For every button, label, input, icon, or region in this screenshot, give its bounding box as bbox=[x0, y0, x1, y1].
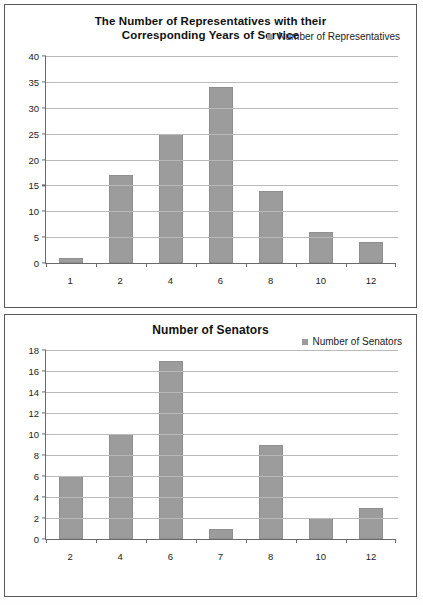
y-axis-tick-mark bbox=[42, 454, 46, 455]
y-axis-tick-mark bbox=[42, 496, 46, 497]
bar-slot bbox=[146, 350, 196, 539]
x-axis-tick-mark bbox=[46, 539, 47, 543]
x-axis-tick-mark bbox=[96, 539, 97, 543]
y-axis-tick-mark bbox=[42, 55, 46, 56]
y-axis-tick-mark bbox=[42, 262, 46, 263]
y-axis-tick-label: 0 bbox=[34, 534, 39, 545]
y-axis-tick-mark bbox=[42, 475, 46, 476]
y-axis-tick-label: 10 bbox=[28, 206, 39, 217]
y-axis-tick-mark bbox=[42, 159, 46, 160]
y-axis-tick-label: 2 bbox=[34, 513, 39, 524]
bar-senators-6 bbox=[159, 361, 183, 540]
x-axis-tick-label: 12 bbox=[346, 275, 396, 286]
bar-slot bbox=[346, 350, 396, 539]
chart-title-senators: Number of Senators bbox=[5, 315, 416, 337]
bar-senators-4 bbox=[109, 434, 133, 539]
plot-canvas-senators: 024681012141618 bbox=[45, 350, 396, 540]
y-axis-tick-mark bbox=[42, 237, 46, 238]
y-axis-tick-mark bbox=[42, 517, 46, 518]
y-axis-tick-label: 25 bbox=[28, 128, 39, 139]
y-axis-tick-label: 12 bbox=[28, 408, 39, 419]
x-axis-tick-mark bbox=[395, 263, 396, 267]
x-axis-tick-mark bbox=[395, 539, 396, 543]
bar-slot bbox=[296, 350, 346, 539]
x-axis-tick-mark bbox=[346, 539, 347, 543]
x-axis-tick-label: 6 bbox=[195, 275, 245, 286]
y-axis-tick-label: 35 bbox=[28, 76, 39, 87]
legend-swatch-icon bbox=[267, 34, 273, 40]
y-axis-tick-mark bbox=[42, 107, 46, 108]
x-axis-tick-mark bbox=[146, 263, 147, 267]
y-axis-tick-mark bbox=[42, 81, 46, 82]
y-axis-tick-mark bbox=[42, 412, 46, 413]
x-axis-tick-label: 7 bbox=[195, 551, 245, 562]
x-axis-tick-mark bbox=[246, 263, 247, 267]
gridline bbox=[46, 82, 398, 83]
y-axis-tick-label: 4 bbox=[34, 492, 39, 503]
bar-senators-12 bbox=[359, 508, 383, 540]
bar-representatives-1 bbox=[59, 258, 83, 263]
y-axis-tick-label: 14 bbox=[28, 387, 39, 398]
y-axis-tick-mark bbox=[42, 391, 46, 392]
x-axis-tick-mark bbox=[196, 263, 197, 267]
x-axis-tick-label: 4 bbox=[95, 551, 145, 562]
y-axis-tick-mark bbox=[42, 433, 46, 434]
chart-title-line-1: The Number of Representatives with their bbox=[5, 14, 416, 28]
gridline bbox=[46, 392, 398, 393]
y-axis-tick-mark bbox=[42, 133, 46, 134]
gridline bbox=[46, 476, 398, 477]
bar-senators-8 bbox=[259, 445, 283, 540]
bar-senators-10 bbox=[309, 518, 333, 539]
bar-slot bbox=[96, 350, 146, 539]
x-axis-tick-mark bbox=[146, 539, 147, 543]
x-axis-tick-mark bbox=[246, 539, 247, 543]
bar-slot bbox=[46, 350, 96, 539]
bar-senators-2 bbox=[59, 476, 83, 539]
x-axis-tick-mark bbox=[96, 263, 97, 267]
gridline bbox=[46, 497, 398, 498]
chart-panel-representatives: The Number of Representatives with their… bbox=[4, 4, 417, 308]
bar-senators-7 bbox=[209, 529, 233, 540]
gridline bbox=[46, 56, 398, 57]
gridline bbox=[46, 134, 398, 135]
y-axis-tick-mark bbox=[42, 370, 46, 371]
x-axis-tick-label: 10 bbox=[296, 275, 346, 286]
y-axis-tick-label: 30 bbox=[28, 102, 39, 113]
gridline bbox=[46, 518, 398, 519]
y-axis-tick-mark bbox=[42, 349, 46, 350]
gridline bbox=[46, 350, 398, 351]
gridline bbox=[46, 185, 398, 186]
y-axis-tick-label: 6 bbox=[34, 471, 39, 482]
bar-representatives-2 bbox=[109, 175, 133, 263]
y-axis-tick-label: 10 bbox=[28, 429, 39, 440]
bar-slot bbox=[196, 350, 246, 539]
y-axis-tick-label: 15 bbox=[28, 180, 39, 191]
x-axis-tick-mark bbox=[46, 263, 47, 267]
legend-representatives: Number of Representatives bbox=[267, 31, 400, 42]
gridline bbox=[46, 160, 398, 161]
bar-representatives-4 bbox=[159, 134, 183, 263]
y-axis-tick-label: 20 bbox=[28, 154, 39, 165]
y-axis-tick-label: 18 bbox=[28, 345, 39, 356]
y-axis-tick-label: 16 bbox=[28, 366, 39, 377]
y-axis-tick-label: 8 bbox=[34, 450, 39, 461]
x-axis-labels-representatives: 124681012 bbox=[45, 275, 396, 286]
x-axis-labels-senators: 246781012 bbox=[45, 551, 396, 562]
x-axis-tick-label: 6 bbox=[145, 551, 195, 562]
x-axis-tick-label: 12 bbox=[346, 551, 396, 562]
x-axis-tick-mark bbox=[346, 263, 347, 267]
x-axis-tick-mark bbox=[296, 539, 297, 543]
y-axis-tick-label: 5 bbox=[34, 232, 39, 243]
gridline bbox=[46, 455, 398, 456]
gridline bbox=[46, 211, 398, 212]
y-axis-tick-mark bbox=[42, 185, 46, 186]
x-axis-tick-label: 2 bbox=[45, 551, 95, 562]
bar-series-senators bbox=[46, 350, 396, 539]
gridline bbox=[46, 108, 398, 109]
chart-panel-senators: Number of Senators Number of Senators 02… bbox=[4, 314, 417, 597]
legend-label-representatives: Number of Representatives bbox=[278, 31, 400, 42]
y-axis-tick-mark bbox=[42, 211, 46, 212]
charts-page: The Number of Representatives with their… bbox=[0, 0, 423, 605]
x-axis-tick-mark bbox=[196, 539, 197, 543]
gridline bbox=[46, 413, 398, 414]
